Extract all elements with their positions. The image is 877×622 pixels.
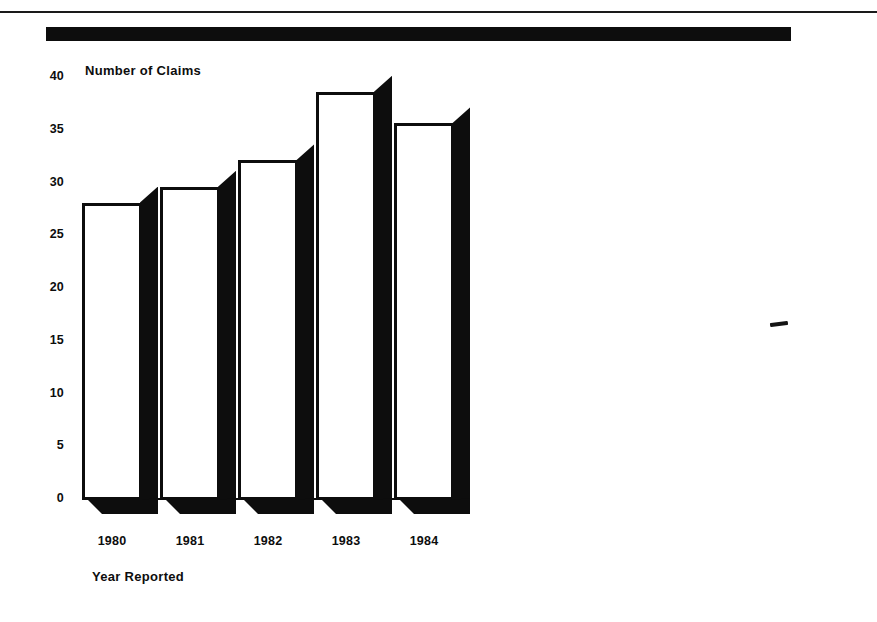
y-tick-label: 10	[30, 386, 64, 400]
bar-front-face	[160, 187, 220, 500]
y-tick-label: 35	[30, 122, 64, 136]
y-tick-label: 5	[30, 438, 64, 452]
bar-front-face	[316, 92, 376, 500]
bar-floor-face	[164, 498, 236, 514]
bar-side-face	[296, 144, 314, 500]
x-tick-label: 1983	[309, 534, 383, 548]
bar-side-face	[218, 171, 236, 500]
chart-title: Number of Claims	[85, 63, 201, 78]
bar-floor-face	[320, 498, 392, 514]
bar-side-face	[374, 76, 392, 500]
x-tick-label: 1982	[231, 534, 305, 548]
y-tick-label: 20	[30, 280, 64, 294]
bar-floor-face	[86, 498, 158, 514]
bar-front-face	[394, 123, 454, 500]
bar-front-face	[82, 203, 142, 500]
bar-front-face	[238, 160, 298, 500]
x-tick-label: 1981	[153, 534, 227, 548]
bar-side-face	[452, 107, 470, 500]
x-axis-title: Year Reported	[92, 569, 184, 584]
y-tick-label: 30	[30, 175, 64, 189]
y-tick-label: 15	[30, 333, 64, 347]
x-tick-label: 1980	[75, 534, 149, 548]
y-tick-label: 0	[30, 491, 64, 505]
bar-floor-face	[242, 498, 314, 514]
header-black-banner	[46, 27, 791, 41]
y-tick-label: 25	[30, 227, 64, 241]
x-tick-label: 1984	[387, 534, 461, 548]
y-tick-label: 40	[30, 69, 64, 83]
bar-chart: Number of Claims 4035302520151050 198019…	[0, 50, 877, 622]
bar-floor-face	[398, 498, 470, 514]
header-divider-rule	[0, 11, 877, 13]
bar-side-face	[140, 187, 158, 500]
